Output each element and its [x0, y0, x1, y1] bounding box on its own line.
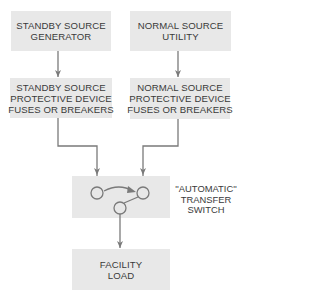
transfer-switch-line-1: ''AUTOMATIC'' — [170, 184, 242, 195]
facility-load-line-1: FACILITY — [100, 259, 142, 270]
common-contact-icon — [114, 202, 126, 214]
switch-blade — [124, 197, 138, 203]
facility-load-box: FACILITY LOAD — [72, 249, 170, 290]
normal-contact-icon — [137, 187, 149, 199]
transfer-switch-label: ''AUTOMATIC'' TRANSFER SWITCH — [170, 184, 242, 216]
facility-load-line-2: LOAD — [108, 270, 135, 281]
transfer-switch-line-3: SWITCH — [170, 205, 242, 216]
standby-contact-icon — [91, 187, 103, 199]
